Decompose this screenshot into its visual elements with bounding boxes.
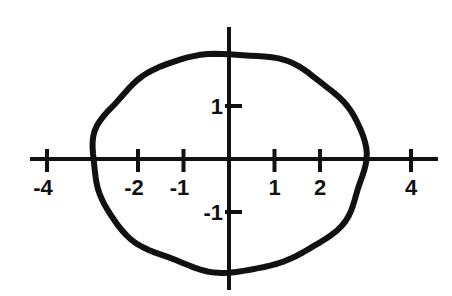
- y-tick-label: -1: [203, 200, 223, 225]
- ellipse-graph: -4-2-1124 1-1: [0, 0, 452, 296]
- x-tick-label: 1: [268, 175, 280, 200]
- x-tick-label: -4: [33, 175, 53, 200]
- x-tick-label: -2: [124, 175, 144, 200]
- x-tick-label: -1: [170, 175, 190, 200]
- y-tick-label: 1: [211, 94, 223, 119]
- x-tick-label: 4: [405, 175, 418, 200]
- x-tick-label: 2: [314, 175, 326, 200]
